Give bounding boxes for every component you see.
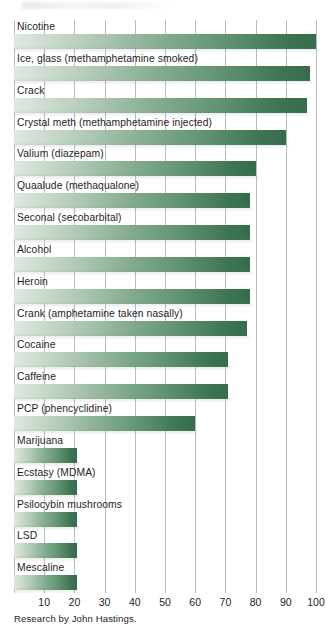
x-tick-label: 80	[250, 596, 262, 608]
bar-rows: NicotineIce, glass (methamphetamine smok…	[14, 20, 316, 593]
bar-row: Heroin	[14, 275, 316, 307]
bar	[14, 130, 286, 145]
bar-row: PCP (phencyclidine)	[14, 402, 316, 434]
bar	[14, 352, 228, 367]
bar	[14, 161, 256, 176]
bar	[14, 98, 307, 113]
x-tick-label: 20	[69, 596, 81, 608]
bar-category-label: Valium (diazepam)	[17, 147, 104, 160]
gridline	[316, 20, 317, 593]
bar	[14, 289, 250, 304]
x-tick-label: 50	[159, 596, 171, 608]
bar-row: Marijuana	[14, 434, 316, 466]
x-tick-label: 60	[189, 596, 201, 608]
bar	[14, 321, 247, 336]
bar	[14, 512, 77, 527]
bar-row: Quaalude (methaqualone)	[14, 179, 316, 211]
bar	[14, 34, 316, 49]
bar-category-label: Crystal meth (methamphetamine injected)	[17, 116, 212, 129]
bar-category-label: Quaalude (methaqualone)	[17, 179, 139, 192]
x-tick-label: 30	[99, 596, 111, 608]
bar-category-label: Mescaline	[17, 561, 64, 574]
bar	[14, 575, 77, 590]
source-note: Research by John Hastings.	[14, 613, 137, 625]
bar	[14, 66, 310, 81]
bar-row: Ice, glass (methamphetamine smoked)	[14, 52, 316, 84]
bar-category-label: Alcohol	[17, 243, 51, 256]
bar-category-label: Ecstasy (MDMA)	[17, 466, 96, 479]
bar	[14, 193, 250, 208]
bar-category-label: Caffeine	[17, 370, 56, 383]
bar	[14, 480, 77, 495]
bar-row: Nicotine	[14, 20, 316, 52]
bar-row: Crank (amphetamine taken nasally)	[14, 307, 316, 339]
bar-category-label: Crack	[17, 84, 44, 97]
bar-row: Mescaline	[14, 561, 316, 593]
bar-category-label: Psilocybin mushrooms	[17, 498, 122, 511]
x-tick-label: 70	[220, 596, 232, 608]
bar-row: Seconal (secobarbital)	[14, 211, 316, 243]
x-tick-label: 40	[129, 596, 141, 608]
bar-category-label: PCP (phencyclidine)	[17, 402, 112, 415]
bar-row: Ecstasy (MDMA)	[14, 466, 316, 498]
bar-category-label: Crank (amphetamine taken nasally)	[17, 307, 183, 320]
bar-row: LSD	[14, 529, 316, 561]
bar-row: Alcohol	[14, 243, 316, 275]
bar-row: Crack	[14, 84, 316, 116]
bar-category-label: Ice, glass (methamphetamine smoked)	[17, 52, 198, 65]
bar-category-label: Seconal (secobarbital)	[17, 211, 122, 224]
bar-row: Valium (diazepam)	[14, 147, 316, 179]
drug-dependence-bar-chart: NicotineIce, glass (methamphetamine smok…	[0, 0, 335, 634]
bar	[14, 543, 77, 558]
bar-category-label: Nicotine	[17, 20, 55, 33]
bar	[14, 257, 250, 272]
x-tick-label: 10	[38, 596, 50, 608]
bar	[14, 416, 195, 431]
plot-area: NicotineIce, glass (methamphetamine smok…	[14, 20, 316, 593]
scan-artifact	[22, 2, 172, 9]
x-tick-label: 100	[307, 596, 325, 608]
x-tick-label: 90	[280, 596, 292, 608]
bar	[14, 225, 250, 240]
bar-row: Cocaine	[14, 338, 316, 370]
bar-category-label: LSD	[17, 529, 37, 542]
bar	[14, 448, 77, 463]
bar-row: Crystal meth (methamphetamine injected)	[14, 116, 316, 148]
bar-row: Caffeine	[14, 370, 316, 402]
x-axis-ticks: 102030405060708090100	[14, 593, 316, 613]
bar-row: Psilocybin mushrooms	[14, 498, 316, 530]
bar-category-label: Marijuana	[17, 434, 63, 447]
bar-category-label: Cocaine	[17, 338, 55, 351]
bar	[14, 384, 228, 399]
bar-category-label: Heroin	[17, 275, 48, 288]
